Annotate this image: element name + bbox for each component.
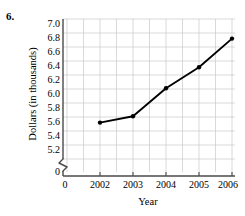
data-point-2003 [131, 114, 135, 118]
chart-plot-area [0, 0, 245, 216]
data-point-2005 [197, 65, 201, 69]
plot-background [63, 19, 235, 172]
figure-panel: 6. Dollars (in thousands) 7.0 6.8 6.6 6.… [0, 0, 245, 216]
data-point-2006 [230, 36, 234, 40]
data-point-2002 [98, 120, 102, 124]
data-point-2004 [164, 86, 168, 90]
